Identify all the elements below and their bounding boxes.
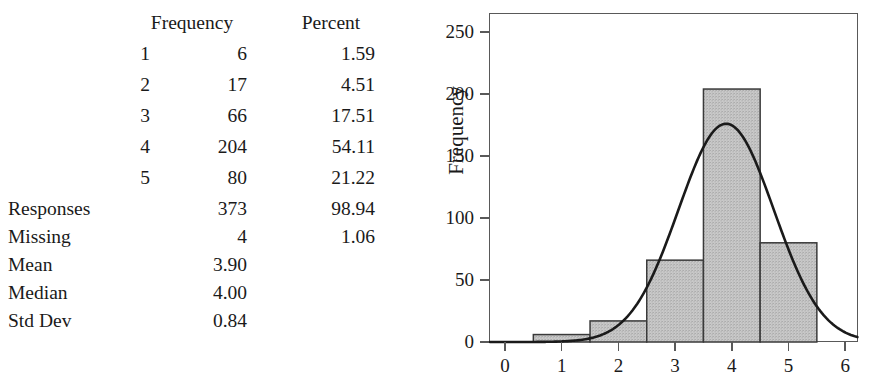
x-axis-tick [561,342,563,351]
row-level: 1 [80,41,150,67]
table-row: 2 17 4.51 [0,72,390,98]
x-axis-tick-label: 3 [655,356,695,375]
table-row: 5 80 21.22 [0,165,390,191]
row-frequency: 6 [157,41,247,67]
x-axis-tick [504,342,506,351]
table-row-missing: Missing 4 1.06 [0,224,390,250]
table-header-row: Frequency Percent [0,10,390,36]
y-axis-tick [480,279,489,281]
row-frequency: 80 [157,165,247,191]
x-axis-tick [674,342,676,351]
row-level: 4 [80,134,150,160]
row-frequency: 66 [157,103,247,129]
column-header-percent: Percent [285,10,377,36]
y-axis-tick [480,217,489,219]
row-label: Responses [8,196,90,222]
x-axis-tick [844,342,846,351]
x-axis-tick-label: 6 [825,356,865,375]
x-axis-tick [618,342,620,351]
row-frequency: 4.00 [157,280,247,306]
row-level: 2 [80,72,150,98]
table-row: 4 204 54.11 [0,134,390,160]
x-axis-tick-label: 1 [542,356,582,375]
row-frequency: 204 [157,134,247,160]
row-percent: 17.51 [285,103,375,129]
row-frequency: 3.90 [157,252,247,278]
y-axis-tick [480,93,489,95]
x-axis-tick [788,342,790,351]
x-axis-tick-label: 2 [598,356,638,375]
x-axis-tick-label: 0 [485,356,525,375]
normal-curve-overlay [410,0,869,384]
y-axis-tick-label: 50 [416,270,474,289]
table-row-responses: Responses 373 98.94 [0,196,390,222]
x-axis-tick-label: 4 [712,356,752,375]
row-label: Missing [8,224,71,250]
row-label: Mean [8,252,52,278]
table-row: 1 6 1.59 [0,41,390,67]
y-axis-tick-label: 150 [416,146,474,165]
x-axis-tick [731,342,733,351]
table-row-std-dev: Std Dev 0.84 [0,308,390,334]
row-percent: 4.51 [285,72,375,98]
row-percent: 98.94 [285,196,375,222]
frequency-table: Frequency Percent 1 6 1.59 2 17 4.51 3 6… [0,0,400,384]
row-label: Median [8,280,68,306]
row-percent: 1.59 [285,41,375,67]
row-percent: 1.06 [285,224,375,250]
row-percent: 21.22 [285,165,375,191]
column-header-frequency: Frequency [137,10,247,36]
x-axis-tick-label: 5 [769,356,809,375]
y-axis-tick [480,155,489,157]
y-axis-tick-label: 200 [416,84,474,103]
table-row: 3 66 17.51 [0,103,390,129]
y-axis-tick-label: 250 [416,22,474,41]
row-percent: 54.11 [285,134,375,160]
y-axis-tick [480,31,489,33]
y-axis-tick-label: 0 [416,332,474,351]
row-frequency: 17 [157,72,247,98]
y-axis-tick-label: 100 [416,208,474,227]
row-level: 5 [80,165,150,191]
table-row-mean: Mean 3.90 [0,252,390,278]
table-row-median: Median 4.00 [0,280,390,306]
row-label: Std Dev [8,308,71,334]
histogram-chart: Frequency 050100150200250 0123456 [410,0,869,384]
y-axis-tick [480,341,489,343]
row-frequency: 4 [157,224,247,250]
normal-distribution-curve [490,124,857,342]
row-frequency: 373 [157,196,247,222]
row-frequency: 0.84 [157,308,247,334]
row-level: 3 [80,103,150,129]
